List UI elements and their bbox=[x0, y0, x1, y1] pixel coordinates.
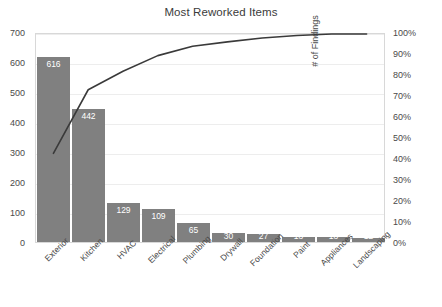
x-axis-tick: Kitchen bbox=[70, 244, 105, 307]
y-axis-right-tick: 70% bbox=[393, 92, 411, 101]
y-axis-left-tick: 700 bbox=[10, 29, 25, 38]
x-axis-tick: Foundation bbox=[245, 244, 280, 307]
y-axis-right-tick: 20% bbox=[393, 197, 411, 206]
y-axis-right-tick: 80% bbox=[393, 71, 411, 80]
x-axis-tick: HVAC bbox=[105, 244, 140, 307]
y-axis-right-tick: 40% bbox=[393, 155, 411, 164]
chart-title: Most Reworked Items bbox=[0, 6, 442, 18]
y-axis-right-tick: 0% bbox=[393, 239, 406, 248]
x-axis-tick: Appliances bbox=[315, 244, 350, 307]
y-axis-right-tick: 50% bbox=[393, 134, 411, 143]
y-axis-left-tick: 400 bbox=[10, 119, 25, 128]
pareto-chart: Most Reworked Items 01002003004005006007… bbox=[0, 0, 442, 307]
x-axis-tick: Landscaping bbox=[350, 244, 385, 307]
y-axis-left-tick: 100 bbox=[10, 209, 25, 218]
y-axis-right-title: # of Findings bbox=[307, 0, 323, 146]
y-axis-left-tick: 500 bbox=[10, 89, 25, 98]
y-axis-left-tick: 600 bbox=[10, 59, 25, 68]
y-axis-right-tick: 10% bbox=[393, 218, 411, 227]
x-axis-tick: Exterior bbox=[35, 244, 70, 307]
x-axis-tick: Plumbing bbox=[175, 244, 210, 307]
y-axis-left: 0100200300400500600700 bbox=[0, 33, 30, 243]
cumulative-line-layer bbox=[36, 34, 384, 242]
y-axis-right: 0%10%20%30%40%50%60%70%80%90%100% bbox=[389, 33, 415, 243]
y-axis-right-tick: 100% bbox=[393, 29, 416, 38]
y-axis-left-tick: 300 bbox=[10, 149, 25, 158]
x-axis-tick: Drywall bbox=[210, 244, 245, 307]
y-axis-right-tick: 90% bbox=[393, 50, 411, 59]
y-axis-right-tick: 30% bbox=[393, 176, 411, 185]
y-axis-left-tick: 200 bbox=[10, 179, 25, 188]
x-axis-labels: ExteriorKitchenHVACElectricalPlumbingDry… bbox=[35, 244, 385, 307]
x-axis-tick: Paint bbox=[280, 244, 315, 307]
y-axis-left-tick: 0 bbox=[20, 239, 25, 248]
plot-area: 616442129109653027181812 bbox=[35, 33, 385, 243]
y-axis-right-tick: 60% bbox=[393, 113, 411, 122]
x-axis-tick: Electrical bbox=[140, 244, 175, 307]
